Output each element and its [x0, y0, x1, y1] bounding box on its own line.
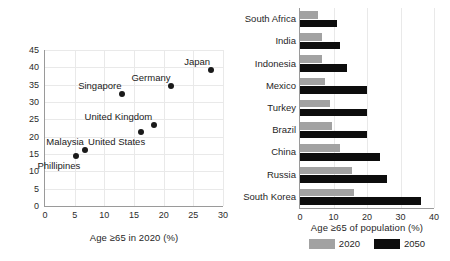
scatter-gridline-horizontal: [45, 171, 223, 172]
scatter-gridline-horizontal: [45, 189, 223, 190]
bar-2050: [300, 175, 387, 183]
scatter-point-label: United States: [88, 136, 145, 147]
scatter-y-tick-label: 20: [29, 132, 39, 142]
bar-x-tick-label: 30: [395, 212, 405, 222]
bar-gridline-vertical: [434, 8, 435, 208]
bar-2020: [300, 100, 330, 108]
bar-2020: [300, 78, 325, 86]
bar-category-label: South Korea: [243, 191, 296, 202]
scatter-point: [82, 147, 88, 153]
scatter-point: [73, 153, 79, 159]
bar-2020: [300, 167, 352, 175]
bar-x-tick-label: 10: [328, 212, 338, 222]
scatter-y-tick-label: 35: [29, 80, 39, 90]
scatter-point-label: United Kingdom: [85, 111, 153, 122]
bar-x-axis-title: Age ≥65 of population (%): [288, 222, 446, 233]
legend-item-2050: 2050: [374, 238, 425, 249]
scatter-y-axis-line: [44, 50, 45, 207]
bar-2050: [300, 64, 347, 72]
scatter-gridline-horizontal: [45, 85, 223, 86]
scatter-y-tick-label: 30: [29, 97, 39, 107]
bar-x-axis-line: [299, 208, 434, 209]
bar-category-label: Russia: [267, 169, 296, 180]
scatter-gridline-vertical: [104, 50, 105, 206]
bar-x-tick-label: 0: [297, 212, 302, 222]
bar-category-label: South Africa: [245, 13, 296, 24]
bar-category-label: China: [271, 146, 296, 157]
bar-2020: [300, 189, 354, 197]
legend-label-2020: 2020: [339, 238, 360, 249]
bar-category-label: Mexico: [266, 80, 296, 91]
scatter-x-tick-label: 10: [99, 210, 109, 220]
scatter-x-tick-label: 5: [72, 210, 77, 220]
scatter-y-tick-label: 45: [29, 45, 39, 55]
scatter-y-tick-label: 5: [34, 184, 39, 194]
bar-2020: [300, 55, 322, 63]
bar-2020: [300, 11, 318, 19]
bar-2050: [300, 20, 337, 28]
bar-category-label: Brazil: [272, 124, 296, 135]
scatter-x-tick-label: 30: [218, 210, 228, 220]
scatter-x-axis-line: [44, 206, 223, 207]
scatter-gridline-horizontal: [45, 67, 223, 68]
legend-item-2020: 2020: [309, 238, 360, 249]
bar-2050: [300, 153, 380, 161]
bar-chart-legend: 2020 2050: [300, 238, 434, 249]
scatter-y-tick-label: 15: [29, 149, 39, 159]
scatter-point-label: Germany: [131, 72, 170, 83]
scatter-x-tick-label: 15: [129, 210, 139, 220]
scatter-point: [208, 67, 214, 73]
scatter-gridline-horizontal: [45, 102, 223, 103]
bar-2050: [300, 131, 367, 139]
scatter-point: [168, 83, 174, 89]
scatter-y-tick-label: 40: [29, 62, 39, 72]
scatter-gridline-vertical: [193, 50, 194, 206]
scatter-gridline-horizontal: [45, 154, 223, 155]
scatter-point-label: Phillipines: [37, 160, 80, 171]
scatter-x-tick-label: 0: [42, 210, 47, 220]
legend-swatch-2050-icon: [374, 239, 400, 249]
scatter-x-tick-label: 25: [188, 210, 198, 220]
bar-x-tick-label: 40: [429, 212, 439, 222]
bar-plot-area: 010203040South AfricaIndiaIndonesiaMexic…: [300, 8, 434, 208]
bar-2050: [300, 42, 340, 50]
scatter-point: [138, 129, 144, 135]
bar-2050: [300, 86, 367, 94]
scatter-chart-panel: Age ≥65 in 2050 (%) 05101520253005101520…: [0, 0, 228, 261]
bar-2020: [300, 144, 340, 152]
scatter-point-label: Malaysia: [46, 136, 84, 147]
bar-2050: [300, 109, 367, 117]
scatter-point: [119, 91, 125, 97]
scatter-gridline-vertical: [75, 50, 76, 206]
scatter-gridline-vertical: [223, 50, 224, 206]
scatter-x-axis-title: Age ≥65 in 2020 (%): [45, 232, 223, 243]
bar-2020: [300, 122, 332, 130]
legend-label-2050: 2050: [404, 238, 425, 249]
scatter-plot-area: 051015202530051015202530354045Phillipine…: [45, 50, 223, 206]
scatter-point-label: Japan: [184, 56, 210, 67]
figure-two-panel-chart: Age ≥65 in 2050 (%) 05101520253005101520…: [0, 0, 450, 261]
scatter-point: [151, 122, 157, 128]
legend-swatch-2020-icon: [309, 239, 335, 249]
bar-2020: [300, 33, 322, 41]
bar-2050: [300, 197, 421, 205]
bar-category-label: Indonesia: [255, 58, 296, 69]
scatter-gridline-horizontal: [45, 50, 223, 51]
bar-category-label: India: [275, 35, 296, 46]
scatter-x-tick-label: 20: [159, 210, 169, 220]
bar-x-tick-label: 20: [362, 212, 372, 222]
bar-category-label: Turkey: [267, 102, 296, 113]
scatter-y-tick-label: 25: [29, 114, 39, 124]
scatter-y-tick-label: 0: [34, 201, 39, 211]
bar-chart-panel: 010203040South AfricaIndiaIndonesiaMexic…: [228, 0, 450, 261]
scatter-point-label: Singapore: [78, 80, 121, 91]
